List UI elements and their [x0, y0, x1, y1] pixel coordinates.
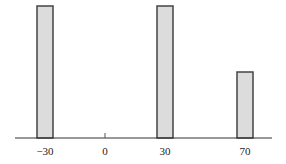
- bar: [237, 72, 253, 138]
- bar: [37, 6, 53, 138]
- x-ticks: −3003070: [36, 133, 251, 157]
- x-tick-label: 70: [240, 145, 252, 157]
- bars: [37, 6, 253, 138]
- x-tick-label: −30: [36, 145, 54, 157]
- x-tick-label: 0: [102, 145, 108, 157]
- bar-chart: −3003070: [0, 0, 286, 164]
- x-tick-label: 30: [160, 145, 172, 157]
- bar: [157, 6, 173, 138]
